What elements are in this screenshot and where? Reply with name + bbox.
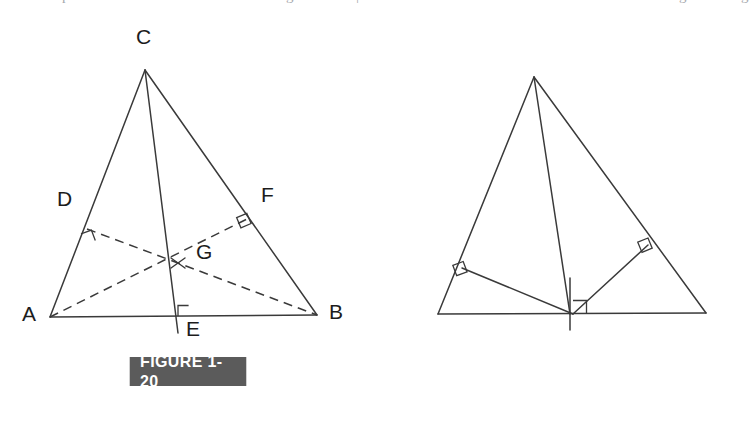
vertex-label-C: C: [136, 26, 151, 47]
segment-GF: [573, 245, 648, 314]
side-AB: [50, 315, 317, 317]
altitude-AF: [50, 219, 247, 317]
figure-caption-1-20: FIGURE 1-20: [130, 357, 247, 386]
altitude-CE: [534, 77, 570, 314]
vertex-label-B: B: [329, 301, 343, 322]
figure-1-21: A B C D E F G FIGURE 1-21: [376, 0, 753, 426]
right-angle-E: [178, 306, 189, 317]
figure-1-21-drawing: [376, 0, 753, 426]
right-angle-F: [638, 238, 652, 252]
figure-page: p g | g g: [0, 0, 753, 426]
vertex-label-F: F: [261, 184, 274, 205]
vertex-label-G: G: [196, 241, 212, 262]
vertex-label-E: E: [186, 318, 200, 339]
side-CB: [534, 77, 706, 313]
vertex-label-D: D: [57, 188, 72, 209]
figure-1-20: A B C D E F G FIGURE 1-20: [0, 0, 376, 426]
segment-GD: [462, 268, 573, 314]
vertex-label-A: A: [22, 303, 36, 324]
